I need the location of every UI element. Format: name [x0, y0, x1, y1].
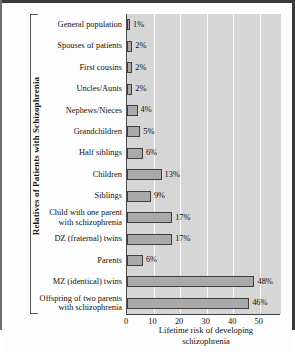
bar — [127, 105, 138, 116]
bar — [127, 255, 143, 266]
bar — [127, 212, 172, 223]
category-label: Child with one parent with schizophrenia — [49, 208, 122, 227]
bar-value-label: 17% — [175, 234, 190, 243]
bar-value-label: 46% — [252, 298, 267, 307]
plot-container: General populationSpouses of patientsFir… — [38, 14, 280, 314]
bar-value-label: 5% — [143, 127, 154, 136]
bar — [127, 19, 130, 30]
category-label: DZ (fraternal) twins — [55, 234, 122, 244]
bar-value-label: 4% — [141, 105, 152, 114]
bar — [127, 234, 172, 245]
gridline-50 — [260, 14, 261, 314]
bar — [127, 84, 132, 95]
category-label: First cousins — [79, 63, 122, 73]
category-label: Offspring of two parents with schizophre… — [40, 294, 122, 313]
bar-value-label: 6% — [146, 255, 157, 264]
bar — [127, 62, 132, 73]
category-label: Half siblings — [79, 148, 122, 158]
category-label-column: General populationSpouses of patientsFir… — [38, 14, 126, 314]
gridline-30 — [207, 14, 208, 314]
bar — [127, 148, 143, 159]
category-label: Parents — [97, 256, 122, 266]
gridline-20 — [180, 14, 181, 314]
category-label: Spouses of patients — [57, 41, 122, 51]
category-label: Uncles/Aunts — [76, 84, 122, 94]
bar-value-label: 13% — [165, 170, 180, 179]
figure-frame-right — [292, 0, 295, 330]
category-label: Siblings — [95, 191, 122, 201]
category-label: Children — [93, 170, 122, 180]
bar — [127, 191, 151, 202]
bar-value-label: 2% — [135, 84, 146, 93]
bar-value-label: 2% — [135, 41, 146, 50]
chart-figure: Relatives of Patients with Schizophrenia… — [0, 0, 295, 352]
bar-value-label: 17% — [175, 213, 190, 222]
x-axis-line — [126, 314, 280, 315]
category-label: Grandchildren — [74, 127, 122, 137]
bar — [127, 276, 254, 287]
category-label: Nephews/Nieces — [66, 106, 122, 116]
bar — [127, 169, 162, 180]
bar-value-label: 1% — [133, 20, 144, 29]
bar-value-label: 2% — [135, 63, 146, 72]
category-bracket — [30, 14, 38, 314]
bar-value-label: 9% — [154, 191, 165, 200]
gridline-10 — [154, 14, 155, 314]
bar-value-label: 48% — [257, 277, 272, 286]
category-label: General population — [58, 20, 122, 30]
bar — [127, 298, 249, 309]
bar — [127, 41, 132, 52]
plot-area: 1%2%2%2%4%5%6%13%9%17%17%6%48%46% — [126, 14, 281, 314]
bar — [127, 126, 140, 137]
category-label: MZ (identical) twins — [53, 277, 122, 287]
gridline-40 — [233, 14, 234, 314]
bar-value-label: 6% — [146, 148, 157, 157]
figure-inner: Relatives of Patients with Schizophrenia… — [2, 3, 292, 352]
x-axis-title: Lifetime risk of developing schizophreni… — [126, 325, 286, 346]
